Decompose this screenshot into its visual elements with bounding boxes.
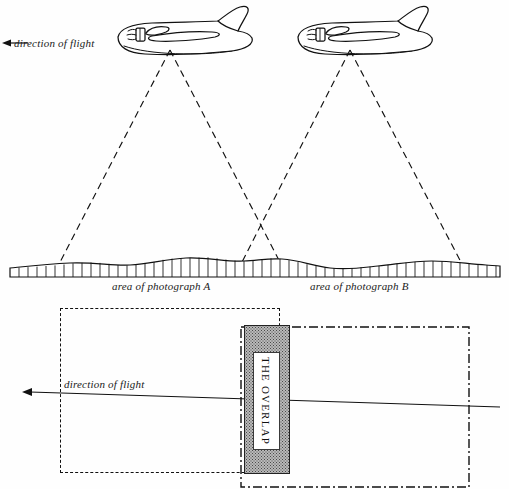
aerial-photography-overlap-figure: THE OVERLAP direction of flight area of … [0,0,509,489]
overlap-label: THE OVERLAP [261,357,273,445]
overlap-label-box: THE OVERLAP [253,352,280,450]
direction-of-flight-label-bottom: direction of flight [62,378,146,390]
ground-terrain-strip [10,257,500,277]
area-of-photograph-b-label: area of photograph B [310,280,409,292]
area-of-photograph-a-label: area of photograph A [112,280,210,292]
camera-cone-b [240,50,463,266]
direction-of-flight-label-top: direction of flight [14,37,94,49]
camera-cone-a [58,50,282,266]
aircraft-a [118,6,252,54]
aircraft-b [298,6,432,54]
